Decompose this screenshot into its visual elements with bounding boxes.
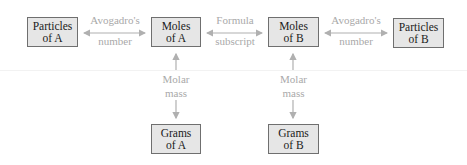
node-label-line1: Moles (152, 20, 200, 32)
node-label-line1: Particles (394, 21, 443, 33)
node-label-line1: Particles (28, 20, 77, 32)
edge-label-line2: mass (151, 86, 201, 100)
node-label-line2: of B (269, 32, 318, 44)
edge-label-line1: Formula (206, 13, 264, 27)
node-grams-a: Grams of A (151, 124, 201, 154)
edge-label-molar-b: Molar mass (268, 72, 319, 100)
node-particles-a: Particles of A (27, 17, 78, 47)
edge-label-molar-a: Molar mass (151, 72, 201, 100)
node-label-line2: of A (152, 32, 200, 44)
node-label-line2: of B (394, 33, 443, 45)
node-moles-b: Moles of B (268, 17, 319, 47)
node-label-line2: of A (152, 139, 200, 151)
node-grams-b: Grams of B (268, 124, 319, 154)
node-label-line1: Grams (152, 127, 200, 139)
edge-label-line1: Avogadro's (325, 13, 387, 27)
edge-label-line2: subscript (206, 34, 264, 48)
edge-label-formula: Formula subscript (206, 13, 264, 48)
node-label-line1: Moles (269, 20, 318, 32)
edge-label-line1: Avogadro's (84, 13, 146, 27)
edge-label-line2: number (84, 34, 146, 48)
edge-label-avogadro-b: Avogadro's number (325, 13, 387, 48)
node-label-line1: Grams (269, 127, 318, 139)
node-particles-b: Particles of B (393, 18, 444, 48)
edge-label-line2: mass (268, 86, 319, 100)
edge-label-line1: Molar (268, 72, 319, 86)
edge-label-avogadro-a: Avogadro's number (84, 13, 146, 48)
node-moles-a: Moles of A (151, 17, 201, 47)
node-label-line2: of B (269, 139, 318, 151)
edge-label-line2: number (325, 34, 387, 48)
node-label-line2: of A (28, 32, 77, 44)
edge-label-line1: Molar (151, 72, 201, 86)
